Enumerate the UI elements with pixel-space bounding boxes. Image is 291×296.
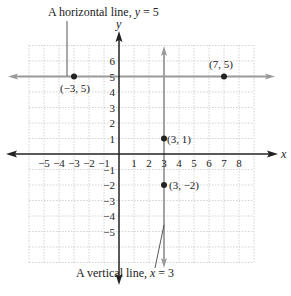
svg-text:4: 4 (176, 157, 182, 169)
point-label-7-5: (7, 5) (209, 58, 233, 71)
svg-text:5: 5 (110, 71, 116, 83)
svg-text:5: 5 (191, 157, 197, 169)
point-7-5 (221, 74, 227, 80)
svg-text:−1: −1 (103, 164, 115, 176)
svg-text:1: 1 (110, 133, 116, 145)
x-tick-labels: −5 −4 −3 −2 −1 1 2 3 4 5 6 7 8 (38, 157, 242, 169)
svg-text:7: 7 (221, 157, 227, 169)
svg-text:6: 6 (110, 55, 116, 67)
point-3-neg2 (161, 182, 167, 188)
svg-text:−2: −2 (103, 179, 115, 191)
svg-text:−5: −5 (103, 226, 115, 238)
y-tick-labels: 6 5 4 3 2 1 −1 −2 −3 −4 −5 (103, 55, 115, 238)
svg-text:−3: −3 (68, 157, 80, 169)
point-label-3-neg2: (3, −2) (169, 179, 199, 192)
svg-text:3: 3 (161, 157, 167, 169)
horizontal-line-caption: A horizontal line, y = 5 (48, 5, 159, 19)
svg-text:−4: −4 (103, 210, 115, 222)
svg-text:3: 3 (110, 102, 116, 114)
vertical-line-caption: A vertical line, x = 3 (76, 266, 174, 280)
svg-text:−3: −3 (103, 195, 115, 207)
svg-text:2: 2 (110, 117, 116, 129)
x-axis-label: x (280, 147, 287, 161)
coordinate-plane: x y −5 −4 −3 −2 −1 1 2 3 4 5 6 7 8 6 5 4… (0, 0, 291, 296)
point-label-3-1: (3, 1) (167, 133, 191, 146)
svg-text:6: 6 (206, 157, 212, 169)
point-label-neg3-5: (−3, 5) (60, 82, 90, 95)
svg-text:1: 1 (131, 157, 137, 169)
svg-text:2: 2 (146, 157, 152, 169)
svg-text:−4: −4 (53, 157, 65, 169)
y-axis-label: y (115, 17, 122, 31)
horizontal-line-y-5 (8, 74, 275, 80)
svg-text:4: 4 (110, 86, 116, 98)
svg-text:−2: −2 (83, 157, 95, 169)
svg-text:−5: −5 (38, 157, 50, 169)
point-neg3-5 (71, 74, 77, 80)
svg-text:8: 8 (236, 157, 242, 169)
